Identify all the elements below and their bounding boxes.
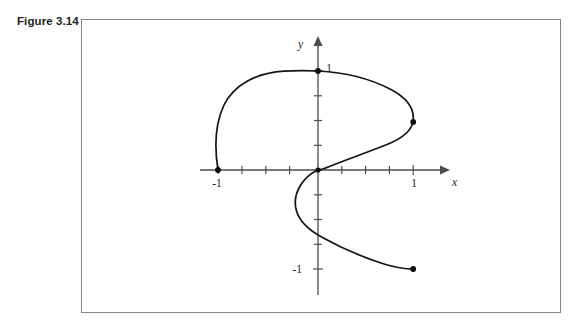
x-axis-label: x [451, 176, 458, 188]
plot-canvas: y x -1 1 1 -1 [81, 19, 561, 313]
y-tick-label-minus-one: -1 [292, 263, 302, 275]
x-tick-label-minus-one: -1 [212, 177, 222, 189]
marker-dot-origin [315, 167, 320, 172]
y-axis-arrow-icon [314, 36, 323, 46]
x-axis-arrow-icon [440, 166, 450, 175]
marker-dot-right-loop-point [410, 119, 416, 125]
marker-dot-bottom-endpoint [410, 266, 416, 272]
y-axis-label: y [297, 38, 304, 51]
marker-dot-left-endpoint [215, 167, 221, 173]
y-tick-label-one: 1 [326, 62, 332, 74]
figure-container: Figure 3.14 [0, 0, 584, 328]
x-tick-label-one: 1 [411, 177, 417, 189]
marker-dot-top-point [315, 68, 321, 74]
figure-caption: Figure 3.14 [17, 15, 79, 28]
